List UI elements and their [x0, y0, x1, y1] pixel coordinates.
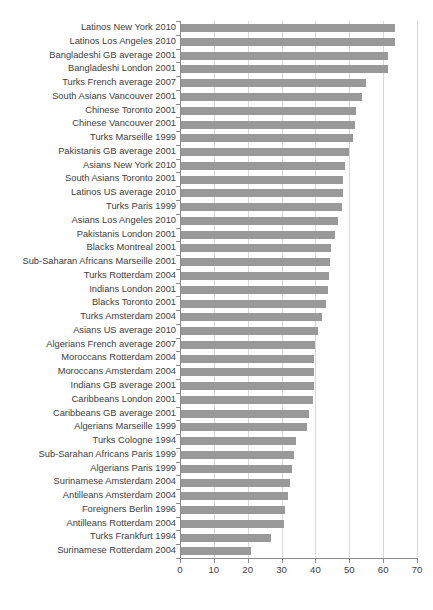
bar-row — [180, 255, 417, 269]
bar — [180, 437, 296, 445]
x-axis-line — [180, 558, 418, 559]
category-label: Algerians Paris 1999 — [0, 462, 176, 476]
bar-row — [180, 434, 417, 448]
x-axis-tick-50 — [349, 559, 350, 563]
bar-row — [180, 21, 417, 35]
y-axis-tick — [176, 172, 180, 173]
bar-row — [180, 462, 417, 476]
category-label: Latinos Los Angeles 2010 — [0, 35, 176, 49]
y-axis-tick — [176, 338, 180, 339]
x-axis-label-20: 20 — [242, 564, 253, 575]
y-axis-tick — [176, 283, 180, 284]
y-axis-tick — [176, 49, 180, 50]
bar — [180, 244, 331, 252]
category-label: Moroccans Amsterdam 2004 — [0, 365, 176, 379]
bar-row — [180, 283, 417, 297]
bar-row — [180, 104, 417, 118]
y-axis-tick — [176, 35, 180, 36]
y-axis-tick — [176, 159, 180, 160]
bar-row — [180, 62, 417, 76]
x-axis-tick-0 — [180, 559, 181, 563]
y-axis-tick — [176, 76, 180, 77]
bar — [180, 258, 330, 266]
bar — [180, 93, 362, 101]
bar — [180, 24, 395, 32]
bar — [180, 65, 388, 73]
bar-row — [180, 310, 417, 324]
category-label: Antilleans Amsterdam 2004 — [0, 489, 176, 503]
bar — [180, 134, 353, 142]
y-axis-tick — [176, 200, 180, 201]
bar-row — [180, 228, 417, 242]
bar — [180, 382, 314, 390]
category-label: Surinamese Rotterdam 2004 — [0, 544, 176, 558]
y-axis-tick — [176, 393, 180, 394]
category-label: Asians US average 2010 — [0, 324, 176, 338]
bar-row — [180, 475, 417, 489]
y-axis-tick — [176, 462, 180, 463]
y-axis-tick — [176, 186, 180, 187]
y-axis-tick — [176, 530, 180, 531]
x-axis-label-10: 10 — [209, 564, 220, 575]
y-axis-tick — [176, 448, 180, 449]
category-label: Bangladeshi London 2001 — [0, 62, 176, 76]
category-label: South Asians Vancouver 2001 — [0, 90, 176, 104]
y-axis-tick — [176, 407, 180, 408]
y-axis-tick — [176, 503, 180, 504]
bar — [180, 368, 314, 376]
bar-row — [180, 407, 417, 421]
bar — [180, 300, 326, 308]
plot-area — [180, 21, 417, 558]
bar — [180, 479, 290, 487]
x-axis-label-40: 40 — [310, 564, 321, 575]
y-axis-tick — [176, 62, 180, 63]
bar — [180, 534, 271, 542]
y-axis-tick — [176, 117, 180, 118]
bar — [180, 327, 318, 335]
category-label: Sub-Sarahan Africans Paris 1999 — [0, 448, 176, 462]
category-label: Turks Marseille 1999 — [0, 131, 176, 145]
bar-row — [180, 393, 417, 407]
category-label: Asians New York 2010 — [0, 159, 176, 173]
y-axis-tick — [176, 420, 180, 421]
bar-row — [180, 269, 417, 283]
category-label: Blacks Montreal 2001 — [0, 241, 176, 255]
bar — [180, 217, 338, 225]
x-axis-label-50: 50 — [344, 564, 355, 575]
bar — [180, 176, 343, 184]
bar-row — [180, 489, 417, 503]
bar — [180, 451, 294, 459]
bar — [180, 492, 288, 500]
bar — [180, 79, 366, 87]
bar-row — [180, 90, 417, 104]
category-label: Turks Paris 1999 — [0, 200, 176, 214]
y-axis-tick — [176, 365, 180, 366]
bar-row — [180, 338, 417, 352]
bar-row — [180, 241, 417, 255]
category-label: Foreigners Berlin 1996 — [0, 503, 176, 517]
bar-row — [180, 159, 417, 173]
bar — [180, 107, 356, 115]
bar-row — [180, 530, 417, 544]
category-label: Turks Cologne 1994 — [0, 434, 176, 448]
x-axis-label-60: 60 — [378, 564, 389, 575]
y-axis-tick — [176, 324, 180, 325]
category-label: Turks French average 2007 — [0, 76, 176, 90]
bar — [180, 465, 292, 473]
category-label: Sub-Saharan Africans Marseille 2001 — [0, 255, 176, 269]
bar-row — [180, 35, 417, 49]
y-axis-tick — [176, 434, 180, 435]
bar-row — [180, 131, 417, 145]
x-axis-tick-70 — [417, 559, 418, 563]
category-label: Algerians French average 2007 — [0, 338, 176, 352]
x-axis-tick-60 — [383, 559, 384, 563]
y-axis-tick — [176, 475, 180, 476]
category-label: Moroccans Rotterdam 2004 — [0, 351, 176, 365]
y-axis-tick — [176, 544, 180, 545]
bar-row — [180, 351, 417, 365]
x-axis-tick-10 — [214, 559, 215, 563]
bar-row — [180, 172, 417, 186]
gridline-70 — [417, 21, 418, 558]
bar-row — [180, 214, 417, 228]
bar — [180, 520, 284, 528]
